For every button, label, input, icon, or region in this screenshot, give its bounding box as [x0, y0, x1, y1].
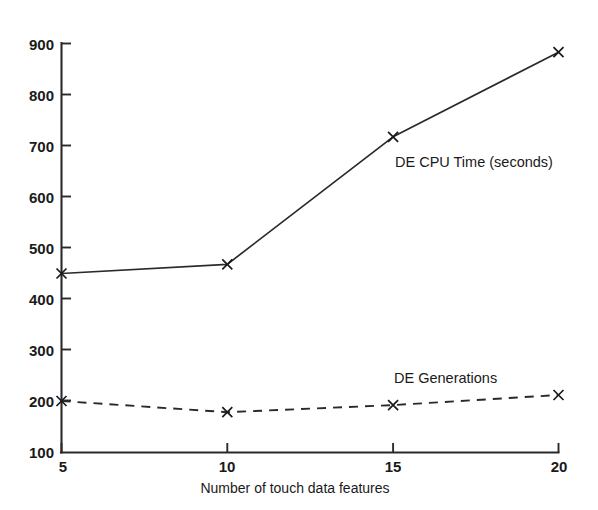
x-tick-label-20: 20 — [551, 459, 568, 474]
axes-group — [61, 43, 559, 453]
y-tick-label-700: 700 — [8, 139, 54, 154]
y-tick-label-500: 500 — [8, 241, 54, 256]
y-tick-label-300: 300 — [8, 343, 54, 358]
y-tick-label-400: 400 — [8, 292, 54, 307]
series-label-de-cpu-time: DE CPU Time (seconds) — [395, 155, 553, 170]
x-axis-title: Number of touch data features — [200, 481, 389, 495]
chart-figure: 900 800 700 600 500 400 300 200 100 5 10… — [0, 0, 598, 510]
series-label-de-generations: DE Generations — [394, 371, 497, 386]
x-tick-marks — [62, 443, 559, 453]
series-line-de-generations — [62, 395, 559, 412]
y-tick-label-900: 900 — [8, 37, 54, 52]
x-tick-label-10: 10 — [219, 459, 236, 474]
series-markers-de-generations — [57, 390, 564, 417]
series-de-generations — [57, 390, 564, 417]
plot-canvas — [0, 0, 598, 510]
x-tick-label-5: 5 — [59, 459, 67, 474]
y-tick-label-600: 600 — [8, 190, 54, 205]
y-tick-label-200: 200 — [8, 394, 54, 409]
y-tick-label-100: 100 — [8, 445, 54, 460]
y-tick-label-800: 800 — [8, 88, 54, 103]
x-tick-label-15: 15 — [385, 459, 402, 474]
y-tick-marks — [62, 44, 72, 401]
